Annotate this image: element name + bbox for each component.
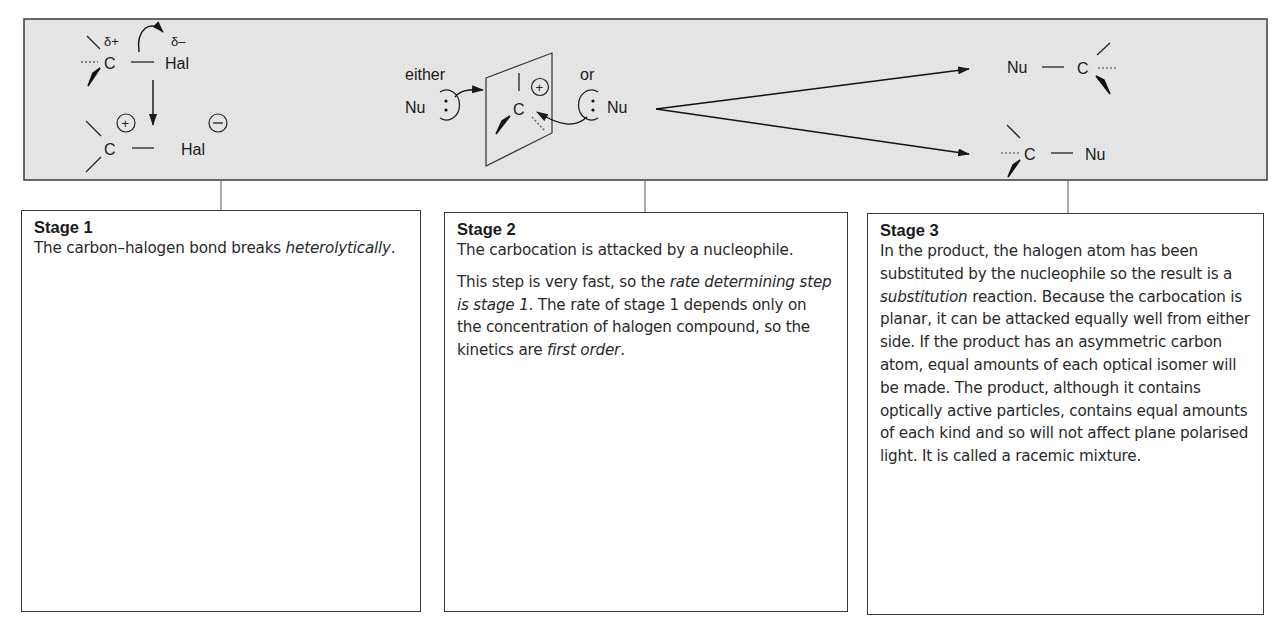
product-top-nucleophile: Nu (1007, 59, 1027, 76)
body-text: In the product, the halogen atom has bee… (880, 242, 1232, 283)
stage-2-box: Stage 2 The carbocation is attacked by a… (444, 212, 848, 612)
emphasis-text: substitution (880, 288, 968, 306)
stage-paragraph: The carbon–halogen bond breaks heterolyt… (34, 237, 408, 260)
lone-pair-dot (591, 108, 594, 111)
either-label: either (405, 66, 446, 83)
stage-2-title: Stage 2 (457, 219, 835, 239)
stage-paragraph: In the product, the halogen atom has bee… (880, 240, 1251, 468)
carbocation-carbon: C (104, 141, 116, 158)
stage-3-body: In the product, the halogen atom has bee… (880, 240, 1251, 468)
carbon-atom: C (104, 55, 116, 72)
body-text: The carbocation is attacked by a nucleop… (457, 241, 793, 259)
halogen-atom: Hal (165, 55, 189, 72)
emphasis-text: heterolytically (286, 239, 391, 257)
product-top-carbon: C (1077, 60, 1089, 77)
product-bottom-nucleophile: Nu (1085, 146, 1105, 163)
body-text: reaction. Because the carbocation is pla… (880, 288, 1250, 466)
emphasis-text: first order (547, 341, 620, 359)
lone-pair-dot (444, 99, 447, 102)
carbocation-carbon: C (513, 101, 525, 118)
stage-3-title: Stage 3 (880, 220, 1251, 240)
body-text: The carbon–halogen bond breaks (34, 239, 286, 257)
positive-charge-sign: + (122, 116, 130, 131)
stage-paragraph: This step is very fast, so the rate dete… (457, 271, 835, 362)
stage-1-box: Stage 1 The carbon–halogen bond breaks h… (21, 210, 421, 612)
stage-3-box: Stage 3 In the product, the halogen atom… (867, 213, 1264, 615)
body-text: . (620, 341, 625, 359)
halide-ion: Hal (181, 141, 205, 158)
positive-charge-sign: + (536, 80, 544, 95)
body-text: . (391, 239, 396, 257)
delta-plus-label: δ+ (104, 34, 119, 49)
mechanism-panel (24, 19, 1267, 180)
stage-paragraph: The carbocation is attacked by a nucleop… (457, 239, 835, 262)
nucleophile-left: Nu (405, 99, 425, 116)
lone-pair-dot (591, 99, 594, 102)
nucleophile-right: Nu (607, 99, 627, 116)
product-bottom-carbon: C (1024, 146, 1036, 163)
stage-1-body: The carbon–halogen bond breaks heterolyt… (34, 237, 408, 260)
or-label: or (580, 66, 595, 83)
stage-1-title: Stage 1 (34, 217, 408, 237)
delta-minus-label: δ– (171, 34, 186, 49)
lone-pair-dot (444, 108, 447, 111)
body-text: This step is very fast, so the (457, 273, 670, 291)
stage-2-body: The carbocation is attacked by a nucleop… (457, 239, 835, 362)
